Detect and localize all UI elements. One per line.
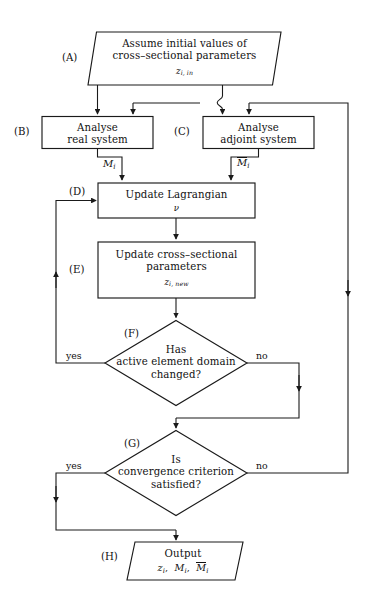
flowchart-diagram: Assume initial values of cross–sectional… bbox=[0, 0, 366, 609]
node-F-tag: (F) bbox=[124, 328, 139, 339]
node-E-tag: (E) bbox=[69, 264, 84, 275]
edge-label-Mbar-i: Mi bbox=[237, 157, 250, 170]
node-H-tag: (H) bbox=[101, 551, 118, 562]
node-D-shape bbox=[98, 183, 255, 218]
node-A-shape bbox=[88, 32, 281, 85]
edge-A-to-C bbox=[217, 85, 222, 114]
edge-label-Mbar-symbol: M bbox=[237, 157, 247, 168]
edge-label-F-no: no bbox=[256, 350, 268, 361]
node-D-tag: (D) bbox=[69, 186, 85, 197]
node-A-tag: (A) bbox=[62, 52, 77, 63]
edge-label-Mbar-index: i bbox=[247, 161, 249, 170]
flowchart-canvas bbox=[0, 0, 366, 609]
edge-label-Mi-symbol: M bbox=[103, 158, 113, 169]
edge-label-Mi: Mi bbox=[103, 158, 116, 171]
node-B-shape bbox=[42, 117, 153, 149]
node-G-tag: (G) bbox=[124, 438, 140, 449]
node-H-shape bbox=[127, 542, 243, 580]
node-C-tag: (C) bbox=[174, 126, 190, 137]
edge-label-G-no: no bbox=[256, 460, 268, 471]
edge-label-Mi-index: i bbox=[113, 162, 115, 171]
edge-label-G-yes: yes bbox=[66, 460, 82, 471]
node-C-shape bbox=[203, 117, 314, 149]
node-E-shape bbox=[98, 242, 255, 298]
edge-label-F-yes: yes bbox=[66, 350, 82, 361]
node-B-tag: (B) bbox=[14, 126, 29, 137]
